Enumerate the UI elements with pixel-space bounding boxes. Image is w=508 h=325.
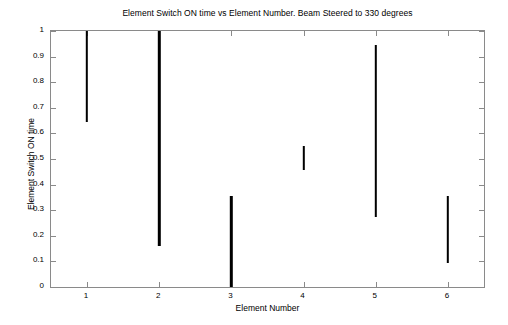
y-axis-tick: [51, 210, 56, 211]
x-axis-tick-top: [304, 31, 305, 36]
x-axis-title: Element Number: [50, 303, 485, 313]
y-axis-tick-right: [479, 133, 484, 134]
x-axis-tick-top: [376, 31, 377, 36]
x-axis-tick-label: 6: [432, 291, 462, 300]
bar-element-3: [230, 196, 232, 287]
y-axis-tick-label: 1: [0, 26, 44, 34]
plot-area: [50, 30, 485, 288]
x-axis-tick: [376, 282, 377, 287]
y-axis-tick: [51, 133, 56, 134]
y-axis-tick-right: [479, 236, 484, 237]
y-axis-tick-label: 0.7: [0, 103, 44, 111]
y-axis-tick-right: [479, 159, 484, 160]
x-axis-tick: [159, 282, 160, 287]
x-axis-tick: [304, 282, 305, 287]
y-axis-tick-right: [479, 261, 484, 262]
y-axis-tick: [51, 57, 56, 58]
y-axis-tick-label: 0.3: [0, 205, 44, 213]
y-axis-tick-right: [479, 31, 484, 32]
plot-inner: [51, 31, 484, 287]
x-axis-tick-label: 5: [360, 291, 390, 300]
x-axis-tick-top: [231, 31, 232, 36]
x-axis-tick-top: [448, 31, 449, 36]
y-axis-tick-label: 0.1: [0, 256, 44, 264]
y-axis-tick-label: 0.5: [0, 154, 44, 162]
y-axis-tick: [51, 159, 56, 160]
y-axis-tick-label: 0.6: [0, 128, 44, 136]
x-axis-tick: [87, 282, 88, 287]
y-axis-tick-label: 0.8: [0, 77, 44, 85]
y-axis-tick-right: [479, 82, 484, 83]
bar-element-1: [86, 31, 88, 122]
y-axis-tick: [51, 31, 56, 32]
y-axis-tick-label: 0: [0, 282, 44, 290]
y-axis-tick: [51, 236, 56, 237]
bar-element-4: [302, 146, 304, 170]
y-axis-tick-label: 0.4: [0, 180, 44, 188]
x-axis-tick: [448, 282, 449, 287]
y-axis-tick-label: 0.2: [0, 231, 44, 239]
y-axis-tick-right: [479, 57, 484, 58]
y-axis-tick-right: [479, 287, 484, 288]
chart-figure: Element Switch ON time vs Element Number…: [0, 0, 508, 325]
x-axis-tick-label: 4: [288, 291, 318, 300]
y-axis-tick: [51, 185, 56, 186]
x-axis-tick-label: 1: [71, 291, 101, 300]
y-axis-tick-right: [479, 108, 484, 109]
y-axis-tick-label: 0.9: [0, 52, 44, 60]
bar-element-5: [375, 45, 377, 217]
y-axis-tick-right: [479, 185, 484, 186]
chart-title: Element Switch ON time vs Element Number…: [50, 8, 485, 19]
bar-element-2: [158, 31, 160, 246]
x-axis-tick-label: 2: [143, 291, 173, 300]
y-axis-tick: [51, 287, 56, 288]
x-axis-tick-label: 3: [215, 291, 245, 300]
y-axis-tick: [51, 261, 56, 262]
y-axis-tick: [51, 108, 56, 109]
y-axis-tick: [51, 82, 56, 83]
y-axis-tick-right: [479, 210, 484, 211]
bar-element-6: [447, 196, 449, 263]
